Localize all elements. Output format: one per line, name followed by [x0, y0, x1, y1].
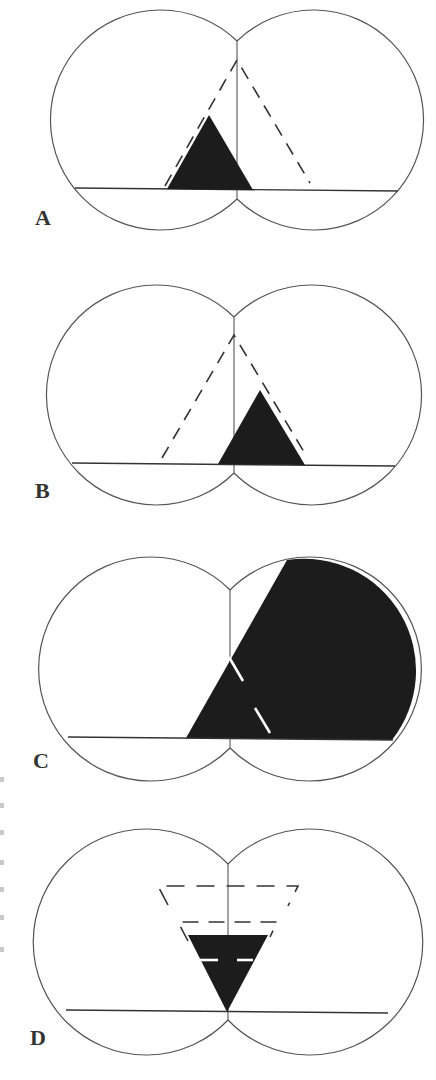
panel-label-b: B [35, 478, 50, 504]
right-circle [237, 10, 424, 230]
panel-label-c: C [33, 748, 49, 774]
filled-inverted-triangle [188, 935, 268, 1012]
left-circle [46, 285, 234, 505]
panel-d-diagram [0, 800, 436, 1080]
panel-c-diagram [0, 530, 436, 780]
panel-a-diagram [0, 0, 436, 240]
clipped-text-fragments [0, 775, 6, 965]
filled-region [186, 559, 416, 740]
left-circle [39, 557, 230, 781]
filled-triangle [218, 390, 305, 465]
figure: A B C D [0, 0, 436, 1080]
filled-triangle [167, 115, 253, 190]
panel-label-d: D [30, 1025, 46, 1051]
panel-label-a: A [35, 205, 51, 231]
panel-b-diagram [0, 260, 436, 510]
